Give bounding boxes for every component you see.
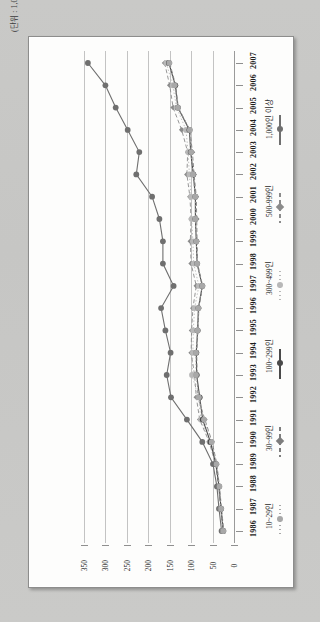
data-point — [175, 105, 181, 111]
legend-label: 500-999인 — [263, 185, 274, 217]
legend-label: 10~29인 — [263, 503, 274, 529]
data-point — [149, 194, 155, 200]
data-point — [196, 305, 202, 311]
data-point — [160, 261, 166, 267]
data-point — [158, 305, 164, 311]
data-point — [184, 417, 190, 423]
data-point — [199, 439, 205, 445]
data-point — [160, 238, 166, 244]
data-point — [214, 461, 220, 467]
data-point — [193, 216, 199, 222]
legend-marker — [275, 437, 283, 445]
data-point — [201, 417, 207, 423]
data-point — [166, 60, 172, 66]
legend-marker — [277, 516, 283, 522]
data-point — [188, 149, 194, 155]
data-point — [172, 82, 178, 88]
value-label-100: 100 — [187, 554, 196, 578]
data-point — [103, 82, 109, 88]
legend-marker — [277, 126, 283, 132]
data-point — [163, 328, 169, 334]
series-line-1 — [165, 63, 223, 531]
value-label-200: 200 — [144, 554, 153, 578]
legend-marker — [277, 360, 283, 366]
series-line-3 — [169, 63, 223, 531]
legend-item-0[interactable]: 1,000인 이상 — [261, 71, 291, 149]
unit-caption: (단위 : 1,000원/개) — [8, 0, 19, 32]
data-point — [199, 283, 205, 289]
data-point — [220, 528, 226, 534]
legend-item-4[interactable]: 30~99인 — [261, 383, 291, 461]
value-label-300: 300 — [101, 554, 110, 578]
unit-caption-wrap: (단위 : 1,000원/개) — [10, 18, 26, 138]
data-point — [85, 60, 91, 66]
data-point — [164, 372, 170, 378]
data-point — [157, 216, 163, 222]
data-point — [209, 439, 215, 445]
data-point — [113, 105, 119, 111]
data-point — [193, 194, 199, 200]
series-layer — [56, 51, 274, 553]
legend-marker — [275, 203, 283, 211]
data-point — [196, 394, 202, 400]
legend-item-1[interactable]: 500-999인 — [261, 149, 291, 227]
value-label-150: 150 — [165, 554, 174, 578]
data-point — [187, 127, 193, 133]
data-point — [190, 172, 196, 178]
legend-label: 300~499인 — [263, 261, 274, 295]
value-label-50: 50 — [208, 554, 217, 578]
value-label-0: 0 — [230, 554, 239, 578]
data-point — [133, 172, 139, 178]
legend-label: 100~299인 — [263, 339, 274, 373]
value-label-350: 350 — [80, 554, 89, 578]
data-point — [136, 149, 142, 155]
data-point — [193, 350, 199, 356]
data-point — [218, 506, 224, 512]
data-point — [171, 283, 177, 289]
legend-marker — [277, 282, 283, 288]
data-point — [194, 261, 200, 267]
data-point — [168, 394, 174, 400]
data-point — [168, 350, 174, 356]
data-point — [125, 127, 131, 133]
data-point — [193, 372, 199, 378]
data-point — [195, 328, 201, 334]
legend-label: 1,000인 이상 — [263, 99, 274, 139]
series-line-0 — [88, 63, 222, 531]
legend-item-5[interactable]: 10~29인 — [261, 461, 291, 539]
legend-item-2[interactable]: 300~499인 — [261, 227, 291, 305]
plot-area: 3503002502001501005002007200620052004200… — [56, 51, 234, 543]
chart-frame: 3503002502001501005002007200620052004200… — [28, 36, 294, 588]
data-point — [217, 484, 223, 490]
legend-label: 30~99인 — [263, 425, 274, 451]
legend-item-3[interactable]: 100~299인 — [261, 305, 291, 383]
data-point — [193, 238, 199, 244]
value-label-250: 250 — [122, 554, 131, 578]
chart-page: (단위 : 1,000원/개) 350300250200150100500200… — [0, 0, 320, 622]
chart-legend: 1,000인 이상500-999인300~499인100~299인30~99인1… — [261, 51, 291, 543]
